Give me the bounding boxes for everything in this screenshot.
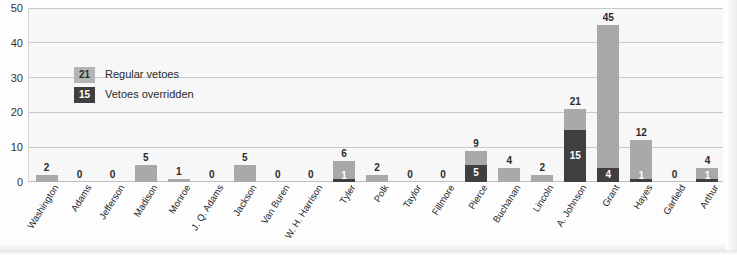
- bar-group[interactable]: 95: [465, 8, 487, 182]
- x-axis-label: Jefferson: [97, 183, 126, 221]
- bar-group[interactable]: 4: [498, 8, 520, 182]
- bar-group[interactable]: 2: [36, 8, 58, 182]
- x-axis-label: Arthur: [699, 183, 721, 210]
- bar-value-label-overridden: 1: [341, 171, 347, 181]
- bar-segment-regular[interactable]: [531, 175, 553, 182]
- bar-group[interactable]: 41: [696, 8, 718, 182]
- bar-value-label-total: 0: [77, 170, 83, 180]
- bar-value-label-total: 6: [341, 149, 347, 159]
- x-axis-label: Pierce: [467, 183, 490, 211]
- bar-group[interactable]: 121: [630, 8, 652, 182]
- bar-value-label-overridden: 4: [606, 170, 612, 180]
- bar-group[interactable]: 2115: [564, 8, 586, 182]
- y-tick-label-30: 30: [0, 73, 23, 83]
- legend-swatch-regular-vetoes: 21: [74, 67, 95, 83]
- legend-item-vetoes-overridden: 15 Vetoes overridden: [74, 86, 194, 103]
- bar-value-label-total: 0: [275, 170, 281, 180]
- bar-value-label-total: 0: [308, 170, 314, 180]
- bar-value-label-total: 9: [473, 139, 479, 149]
- bar-value-label-total: 0: [407, 170, 413, 180]
- y-tick-label-20: 20: [0, 107, 23, 117]
- bar-group[interactable]: 0: [432, 8, 454, 182]
- bar-value-label-total: 45: [603, 13, 614, 23]
- x-axis-label: A. Johnson: [555, 183, 589, 229]
- bar-value-label-total: 12: [636, 128, 647, 138]
- x-axis-label: Adams: [69, 183, 93, 213]
- x-axis-label: Polk: [372, 183, 390, 204]
- bar-value-label-overridden: 15: [570, 151, 581, 161]
- x-axis-label: Madison: [132, 183, 160, 219]
- bar-value-label-total: 0: [440, 170, 446, 180]
- legend-label-vetoes-overridden: Vetoes overridden: [105, 89, 194, 100]
- x-axis-label: Washington: [25, 183, 60, 231]
- bar-value-label-overridden: 1: [639, 171, 645, 181]
- bar-group[interactable]: 2: [366, 8, 388, 182]
- x-axis-label: Buchanan: [492, 183, 523, 225]
- x-axis-label: J. Q. Adams: [189, 183, 225, 232]
- chart-legend: 21 Regular vetoes 15 Vetoes overridden: [74, 66, 194, 106]
- legend-swatch-vetoes-overridden: 15: [74, 87, 95, 103]
- veto-bar-chart: 01020304050 2005105006120095422115454121…: [0, 0, 737, 255]
- x-axis-label: Jackson: [231, 183, 258, 218]
- bar-value-label-total: 4: [506, 156, 512, 166]
- bar-segment-regular[interactable]: [597, 25, 619, 168]
- bar-group[interactable]: 61: [333, 8, 355, 182]
- bar-value-label-total: 0: [209, 170, 215, 180]
- x-axis-label: Lincoln: [531, 183, 555, 214]
- x-axis-label: Tyler: [338, 183, 357, 206]
- bar-value-label-total: 2: [374, 163, 380, 173]
- x-axis-label: Grant: [601, 183, 622, 208]
- bar-segment-regular[interactable]: [135, 165, 157, 182]
- x-axis-label: Hayes: [632, 183, 655, 211]
- bar-group[interactable]: 0: [663, 8, 685, 182]
- bar-value-label-total: 5: [242, 153, 248, 163]
- x-axis-label: Fillmore: [430, 183, 456, 217]
- scan-edge-right: [726, 0, 737, 250]
- x-axis-label: Taylor: [402, 183, 424, 210]
- bar-group[interactable]: 0: [201, 8, 223, 182]
- bar-value-label-total: 0: [672, 170, 678, 180]
- bar-segment-regular[interactable]: [168, 179, 190, 182]
- bar-value-label-total: 1: [176, 167, 182, 177]
- bar-value-label-total: 4: [705, 156, 711, 166]
- bar-value-label-overridden: 5: [473, 168, 479, 178]
- bar-value-label-total: 0: [110, 170, 116, 180]
- bar-group[interactable]: 0: [267, 8, 289, 182]
- bar-group[interactable]: 454: [597, 8, 619, 182]
- bar-group[interactable]: 0: [399, 8, 421, 182]
- y-tick-label-40: 40: [0, 38, 23, 48]
- y-tick-label-0: 0: [0, 177, 23, 187]
- bar-segment-regular[interactable]: [498, 168, 520, 182]
- legend-label-regular-vetoes: Regular vetoes: [105, 69, 179, 80]
- bar-segment-regular[interactable]: [366, 175, 388, 182]
- x-axis-labels: WashingtonAdamsJeffersonMadisonMonroeJ. …: [28, 183, 722, 253]
- bar-segment-regular[interactable]: [564, 109, 586, 130]
- bar-value-label-total: 21: [570, 97, 581, 107]
- bar-value-label-total: 2: [539, 163, 545, 173]
- bar-group[interactable]: 0: [300, 8, 322, 182]
- x-axis-label: Monroe: [167, 183, 193, 216]
- bar-value-label-total: 5: [143, 153, 149, 163]
- legend-item-regular-vetoes: 21 Regular vetoes: [74, 66, 194, 83]
- y-axis: 01020304050: [0, 8, 28, 182]
- bar-segment-regular[interactable]: [234, 165, 256, 182]
- bar-value-label-total: 2: [44, 163, 50, 173]
- bar-group[interactable]: 2: [531, 8, 553, 182]
- bar-segment-regular[interactable]: [465, 151, 487, 165]
- bar-segment-regular[interactable]: [36, 175, 58, 182]
- bar-group[interactable]: 5: [234, 8, 256, 182]
- x-axis-label: Garfield: [662, 183, 688, 217]
- y-tick-label-50: 50: [0, 3, 23, 13]
- bar-value-label-overridden: 1: [705, 171, 711, 181]
- x-axis-label: Van Buren: [259, 183, 291, 226]
- y-tick-label-10: 10: [0, 142, 23, 152]
